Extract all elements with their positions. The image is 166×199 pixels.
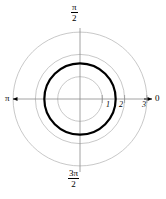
theta-label-3pi-over-2: 3π 2: [68, 168, 79, 190]
radial-tick-label-2: 2: [119, 101, 123, 109]
polar-plot-figure: π 2 3π 2 π 0 1 2 3: [0, 0, 166, 199]
theta-label-3pi-over-2-numerator: 3π: [68, 168, 79, 179]
radial-tick-label-3: 3: [142, 101, 146, 109]
theta-label-pi: π: [5, 94, 10, 103]
theta-label-zero: 0: [155, 94, 160, 103]
theta-label-pi-over-2-denominator: 2: [71, 13, 78, 23]
left-arrow-icon: [13, 97, 18, 101]
theta-label-3pi-over-2-denominator: 2: [68, 179, 79, 189]
radial-tick-label-1: 1: [106, 101, 110, 109]
right-arrow-icon: [148, 97, 153, 101]
theta-label-pi-over-2-numerator: π: [71, 2, 78, 13]
theta-label-pi-over-2: π 2: [71, 2, 78, 24]
